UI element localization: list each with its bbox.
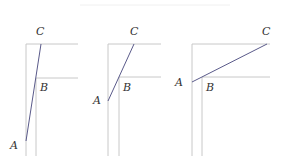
label-a-panel-1: A	[10, 140, 18, 151]
label-a-panel-3: A	[175, 77, 183, 88]
segment-ac	[26, 44, 41, 141]
label-c-panel-2: C	[130, 26, 138, 37]
panel-1	[26, 44, 78, 156]
segment-ac	[192, 44, 267, 82]
label-b-panel-2: B	[123, 82, 131, 93]
diagram-canvas	[0, 0, 287, 160]
label-a-panel-2: A	[93, 95, 101, 106]
label-b-panel-1: B	[40, 82, 48, 93]
panel-2	[108, 44, 161, 156]
panel-3	[192, 44, 270, 156]
outer-corner	[26, 44, 78, 156]
label-c-panel-1: C	[36, 26, 44, 37]
outer-corner	[192, 44, 270, 156]
label-b-panel-3: B	[206, 82, 214, 93]
label-c-panel-3: C	[262, 26, 270, 37]
outer-corner	[108, 44, 161, 156]
